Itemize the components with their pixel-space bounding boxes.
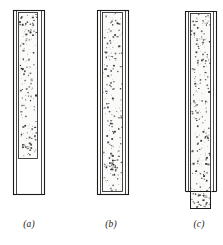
column-panel-a [14,11,45,195]
column-panel-b [98,11,129,195]
column-configurations-diagram [0,0,223,245]
figure-container: (a) (b) (c) [0,0,223,245]
extruded-plug-c [191,192,211,209]
panel-caption-a: (a) [9,219,49,229]
packing-bed-c [191,14,211,209]
column-panel-c [186,12,217,209]
panel-caption-c: (c) [179,219,219,229]
panel-caption-b: (b) [91,219,131,229]
